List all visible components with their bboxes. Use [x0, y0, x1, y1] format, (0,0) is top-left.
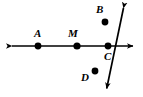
point-b-dot	[102, 19, 109, 26]
point-c-label: C	[104, 51, 111, 62]
point-m-dot	[73, 42, 80, 49]
point-b-label: B	[96, 4, 103, 15]
point-m-label: M	[68, 28, 78, 39]
point-a-dot	[35, 43, 42, 50]
point-d-label: D	[81, 72, 89, 83]
diagram-canvas	[0, 0, 143, 97]
point-d-dot	[92, 68, 99, 75]
point-a-label: A	[34, 28, 41, 39]
geometry-diagram: A M C B D	[0, 0, 143, 97]
line-group	[12, 8, 133, 89]
point-c-dot	[105, 43, 112, 50]
